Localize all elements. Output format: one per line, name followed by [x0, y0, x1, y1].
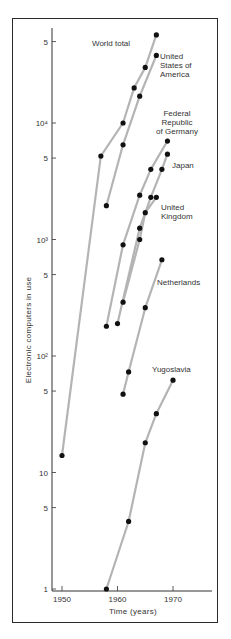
data-point [104, 586, 109, 591]
data-point [137, 193, 142, 198]
y-tick-label: 5 [44, 271, 49, 280]
y-axis-title: Electronic computers in use [24, 277, 33, 384]
data-point [126, 369, 131, 374]
data-point [154, 32, 159, 37]
x-tick-label: 1950 [53, 595, 71, 604]
series-points [59, 32, 175, 591]
data-point [143, 440, 148, 445]
data-point [137, 94, 142, 99]
data-point [154, 53, 159, 58]
data-point [143, 65, 148, 70]
series-line [106, 380, 173, 589]
data-point [120, 300, 125, 305]
data-point [132, 85, 137, 90]
data-point [159, 167, 164, 172]
series-label: Netherlands [157, 278, 200, 287]
y-tick-label: 5 [44, 154, 49, 163]
y-tick-label: 1 [44, 585, 49, 594]
data-point [59, 453, 64, 458]
x-axis-title: Time (years) [109, 607, 157, 616]
series-line [62, 35, 156, 456]
data-point [104, 203, 109, 208]
data-point [126, 519, 131, 524]
data-point [165, 138, 170, 143]
series-label: Yugoslavia [152, 365, 191, 374]
data-point [137, 237, 142, 242]
data-point [120, 242, 125, 247]
data-point [143, 210, 148, 215]
data-point [120, 392, 125, 397]
y-tick-label: 10² [36, 352, 48, 361]
series-label: UnitedKingdom [161, 203, 193, 221]
y-tick-label: 5 [44, 387, 49, 396]
data-point [120, 120, 125, 125]
data-point [143, 305, 148, 310]
data-point [154, 195, 159, 200]
y-tick-label: 10³ [36, 236, 48, 245]
data-point [170, 378, 175, 383]
series-label: Japan [172, 161, 194, 170]
data-point [137, 226, 142, 231]
y-tick-label: 5 [44, 38, 49, 47]
series-line [106, 56, 156, 206]
computers-in-use-chart: 1510510²510³510⁴5195019601970 World tota… [0, 0, 231, 639]
series-line [123, 197, 156, 302]
series-label: UnitedStates ofAmerica [160, 52, 192, 79]
y-tick-label: 10⁴ [36, 119, 49, 128]
data-point [159, 257, 164, 262]
x-tick-label: 1960 [109, 595, 127, 604]
series-label: World total [92, 39, 130, 48]
data-point [98, 153, 103, 158]
data-point [165, 152, 170, 157]
data-point [154, 411, 159, 416]
series-label: FederalRepublicof Germany [156, 109, 198, 136]
y-tick-label: 5 [44, 504, 49, 513]
data-point [104, 324, 109, 329]
x-tick-label: 1970 [164, 595, 182, 604]
y-tick-label: 10 [39, 469, 48, 478]
series-lines [62, 35, 173, 589]
data-point [120, 142, 125, 147]
data-point [148, 195, 153, 200]
data-point [115, 321, 120, 326]
data-point [148, 167, 153, 172]
